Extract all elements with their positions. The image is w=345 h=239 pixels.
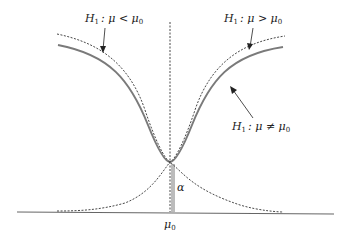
power-curve-diagram: H1: μ < μ0 H1: μ > μ0 H1: μ ≠ μ0 α μ0 xyxy=(0,0,345,239)
alpha-label: α xyxy=(177,181,185,194)
right-hypothesis-label: H1: μ > μ0 xyxy=(223,12,282,26)
x-axis xyxy=(17,212,334,214)
mu0-label: μ0 xyxy=(164,218,176,232)
two-sided-hypothesis-label: H1: μ ≠ μ0 xyxy=(231,120,290,134)
two-sided-label-arrowhead xyxy=(230,86,237,94)
left-hypothesis-label: H1: μ < μ0 xyxy=(84,12,143,26)
two-sided-label-arrow xyxy=(233,90,253,118)
left-label-arrowhead xyxy=(100,46,106,53)
two-sided-power-curve xyxy=(58,45,283,162)
